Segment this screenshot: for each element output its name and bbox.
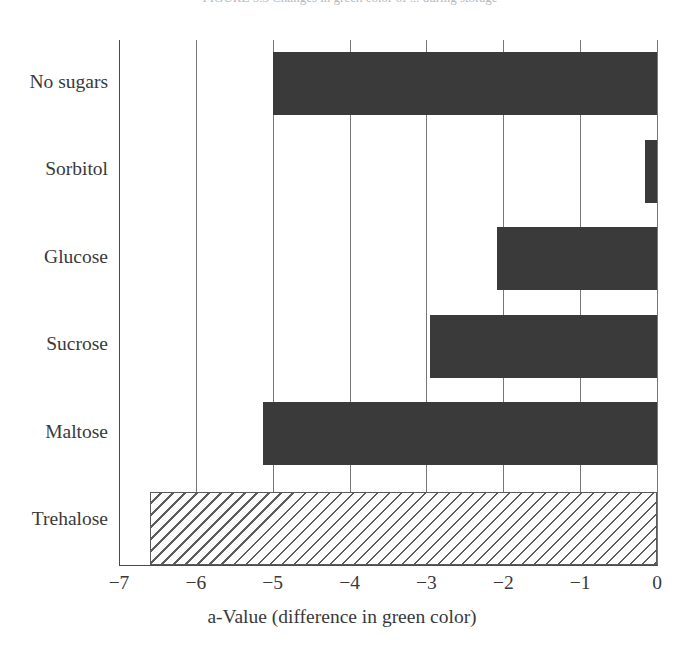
plot-area — [119, 40, 657, 565]
x-tick-label: −2 — [473, 572, 533, 594]
bar-row — [119, 478, 657, 566]
y-axis-label-maltose: Maltose — [0, 421, 108, 443]
bar-sorbitol — [645, 140, 657, 203]
bar-sucrose — [430, 315, 657, 378]
x-tick-label: −4 — [320, 572, 380, 594]
bar-row — [119, 390, 657, 478]
y-axis-label-trehalose: Trehalose — [0, 508, 108, 530]
bar-no-sugars — [273, 52, 657, 115]
gridline — [657, 40, 658, 565]
bar-trehalose — [150, 492, 657, 566]
y-axis-label-glucose: Glucose — [0, 246, 108, 268]
x-tick-label: 0 — [627, 572, 684, 594]
bar-chart: a-Value (difference in green color) No s… — [0, 0, 684, 655]
bar-row — [119, 303, 657, 391]
y-axis-label-no-sugars: No sugars — [0, 71, 108, 93]
bar-maltose — [263, 402, 657, 465]
x-tick-label: −5 — [243, 572, 303, 594]
x-tick-label: −1 — [550, 572, 610, 594]
x-axis-title: a-Value (difference in green color) — [0, 606, 684, 628]
x-tick-label: −3 — [396, 572, 456, 594]
x-tick-label: −7 — [89, 572, 149, 594]
bar-row — [119, 40, 657, 128]
bar-row — [119, 215, 657, 303]
y-axis-label-sorbitol: Sorbitol — [0, 158, 108, 180]
x-axis-line — [119, 565, 658, 566]
bar-glucose — [497, 227, 657, 290]
x-tick-label: −6 — [166, 572, 226, 594]
bar-row — [119, 128, 657, 216]
y-axis-label-sucrose: Sucrose — [0, 333, 108, 355]
